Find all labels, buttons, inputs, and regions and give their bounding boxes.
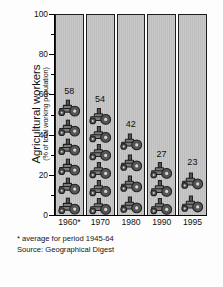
- chart-notes: * average for period 1945-64 Source: Geo…: [17, 233, 217, 255]
- x-axis-label: 1960*: [55, 217, 84, 229]
- y-tick-label: 40: [39, 130, 48, 140]
- tractor-icon: [118, 131, 145, 152]
- tractor-icon: [148, 179, 175, 197]
- y-axis-title-area: Agricultural workers (% of total working…: [0, 0, 34, 220]
- y-tick-label: 0: [43, 210, 48, 220]
- tractor-stack: [148, 161, 175, 215]
- tractor-icon: [179, 169, 206, 192]
- y-tick-label: 60: [39, 89, 48, 99]
- x-axis-line: [52, 215, 207, 216]
- bar-value-label: 42: [126, 119, 136, 129]
- tractor-icon: [56, 196, 83, 215]
- y-tick-label: 80: [39, 49, 48, 59]
- y-tick-mark: [49, 215, 55, 216]
- bar-column[interactable]: 58: [55, 14, 84, 215]
- tractor-stack: [87, 106, 114, 215]
- tractor-icon: [118, 152, 145, 173]
- bar-value-label: 27: [157, 149, 167, 159]
- tractor-icon: [56, 157, 83, 176]
- tractor-icon: [56, 98, 83, 117]
- x-axis-labels: 1960*1970198019901995: [55, 217, 207, 229]
- note-footnote: * average for period 1945-64: [17, 233, 217, 244]
- bar-value-label: 54: [95, 94, 105, 104]
- tractor-icon: [148, 161, 175, 179]
- x-axis-label: 1980: [117, 217, 146, 229]
- x-axis-label: 1990: [147, 217, 176, 229]
- tractor-icon: [87, 143, 114, 161]
- bar-value-label: 23: [187, 157, 197, 167]
- tractor-icon: [56, 176, 83, 195]
- tractor-stack: [118, 131, 145, 215]
- tractor-icon: [87, 161, 114, 179]
- y-tick-label: 100: [34, 9, 48, 19]
- tractor-icon: [56, 137, 83, 156]
- y-tick-label: 20: [39, 170, 48, 180]
- tractor-icon: [118, 173, 145, 194]
- agricultural-workers-chart: Agricultural workers (% of total working…: [0, 0, 223, 287]
- tractor-icon: [56, 118, 83, 137]
- bar-column[interactable]: 42: [117, 14, 146, 215]
- bar-column[interactable]: 27: [147, 14, 176, 215]
- tractor-icon: [179, 192, 206, 215]
- tractor-icon: [87, 125, 114, 143]
- x-axis-label: 1995: [178, 217, 207, 229]
- bar-column[interactable]: 23: [178, 14, 207, 215]
- bar-value-label: 58: [64, 86, 74, 96]
- tractor-stack: [179, 169, 206, 215]
- bar-column[interactable]: 54: [86, 14, 115, 215]
- tractor-icon: [87, 179, 114, 197]
- y-axis-title-sub: (% of total working population): [42, 16, 50, 212]
- plot-area: 020406080100 5854422723: [55, 14, 207, 215]
- x-axis-label: 1970: [86, 217, 115, 229]
- tractor-icon: [118, 194, 145, 215]
- note-source: Source: Geographical Digest: [17, 244, 217, 255]
- tractor-icon: [87, 197, 114, 215]
- tractor-stack: [56, 98, 83, 215]
- tractor-icon: [148, 197, 175, 215]
- tractor-icon: [87, 107, 114, 125]
- bar-columns: 5854422723: [55, 14, 207, 215]
